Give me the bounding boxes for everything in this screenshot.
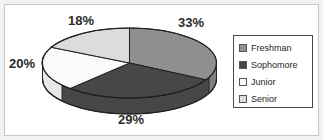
legend-label-junior: Junior	[251, 78, 276, 87]
chart-plot-area: 33% 18% 20% 29% Freshman Sophomore Junio…	[0, 0, 323, 140]
legend-item-sophomore[interactable]: Sophomore	[239, 57, 312, 73]
legend-item-freshman[interactable]: Freshman	[239, 40, 312, 56]
legend-item-senior[interactable]: Senior	[239, 91, 312, 107]
data-label-freshman: 33%	[178, 16, 204, 29]
legend-label-freshman: Freshman	[251, 44, 292, 53]
square-swatch-icon	[239, 61, 247, 69]
square-swatch-icon	[239, 95, 247, 103]
data-label-senior: 18%	[68, 14, 94, 27]
square-swatch-icon	[239, 44, 247, 52]
legend-label-senior: Senior	[251, 95, 277, 104]
square-swatch-icon	[239, 78, 247, 86]
data-label-junior: 20%	[9, 57, 35, 70]
pie-chart-screenshot: 33% 18% 20% 29% Freshman Sophomore Junio…	[0, 0, 323, 140]
data-label-sophomore: 29%	[118, 113, 144, 126]
legend-label-sophomore: Sophomore	[251, 61, 298, 70]
chart-legend: Freshman Sophomore Junior Senior	[233, 35, 313, 108]
legend-item-junior[interactable]: Junior	[239, 74, 312, 90]
